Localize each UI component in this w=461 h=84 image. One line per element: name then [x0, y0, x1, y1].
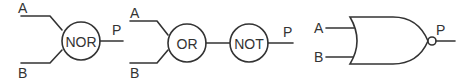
nor-gate-body [350, 17, 428, 64]
input-a-label: A [18, 0, 28, 16]
input-b-label: B [314, 49, 323, 65]
nor-gate-label: NOR [65, 34, 96, 50]
input-a-wire [130, 21, 168, 35]
input-a-label: A [130, 5, 140, 21]
or-gate-label: OR [177, 36, 198, 52]
input-a-wire [21, 16, 62, 30]
or-not-chain-diagram: A B OR NOT P [130, 5, 293, 81]
logic-gate-diagram: A B NOR P A B OR NOT P A B P [0, 0, 461, 84]
input-a-label: A [314, 20, 324, 36]
nor-block-diagram: A B NOR P [18, 0, 123, 81]
output-label: P [283, 24, 292, 40]
inversion-bubble [428, 37, 436, 45]
nor-symbol-diagram: A B P [314, 17, 455, 65]
not-gate-label: NOT [234, 36, 264, 52]
input-b-label: B [18, 65, 27, 81]
output-label: P [436, 22, 445, 38]
input-b-label: B [130, 65, 139, 81]
input-b-wire [21, 50, 62, 63]
input-b-wire [130, 50, 168, 63]
output-label: P [112, 22, 121, 38]
